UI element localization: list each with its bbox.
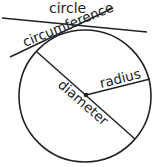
circle-diagram: circle circumference radius diameter: [0, 0, 153, 167]
